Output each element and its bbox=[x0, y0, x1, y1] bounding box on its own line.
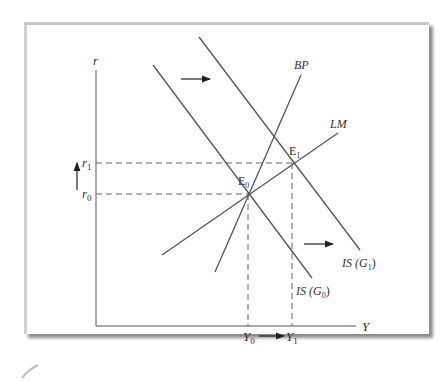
is-g0-label: IS(G0) bbox=[295, 284, 330, 300]
lm-label: LM bbox=[329, 117, 348, 131]
y1-label: Y1 bbox=[286, 329, 298, 346]
is-g1-curve bbox=[199, 37, 360, 250]
e1-label: E1 bbox=[289, 144, 300, 160]
bp-label: BP bbox=[294, 58, 309, 72]
bp-curve bbox=[215, 75, 301, 272]
e0-label: E0 bbox=[238, 174, 249, 190]
x-axis-label: Y bbox=[362, 319, 371, 334]
y0-label: Y0 bbox=[243, 329, 255, 346]
is-lm-bp-diagram: r Y r1 r0 Y0 Y1 BP LM IS(G1) IS(G0) E0 E… bbox=[0, 0, 446, 381]
r0-label: r0 bbox=[82, 186, 92, 203]
y-axis-label: r bbox=[93, 53, 99, 68]
page-curl-decoration bbox=[22, 365, 38, 378]
is-g0-curve bbox=[153, 65, 312, 278]
is-g1-label: IS(G1) bbox=[341, 256, 376, 272]
r1-label: r1 bbox=[82, 155, 92, 172]
